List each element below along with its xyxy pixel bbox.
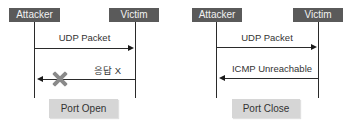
result-port-close: Port Close <box>232 99 300 118</box>
icmp-unreachable-arrow <box>224 78 318 79</box>
arrow-head-left-icon <box>219 75 225 81</box>
diagram-port-close: Attacker Victim UDP Packet ICMP Unreacha… <box>0 0 355 127</box>
udp-packet-arrow <box>216 47 312 48</box>
victim-lifeline <box>318 22 319 98</box>
actor-victim: Victim <box>293 8 343 22</box>
udp-packet-label: UDP Packet <box>216 32 318 43</box>
actor-attacker: Attacker <box>192 8 242 22</box>
arrow-head-right-icon <box>311 44 317 50</box>
icmp-unreachable-label: ICMP Unreachable <box>226 63 318 74</box>
